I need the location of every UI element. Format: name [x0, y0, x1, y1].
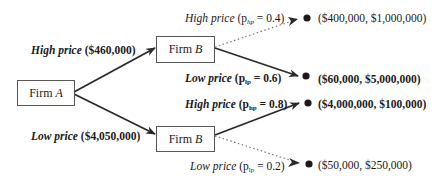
node-player: B — [195, 42, 202, 57]
arrowhead-top-high — [288, 17, 298, 26]
terminal-node-2 — [302, 72, 309, 79]
payoff-1: ($400,000, $1,000,000) — [318, 11, 426, 25]
node-firm-a: Firm A — [17, 80, 75, 106]
payoff-2: ($60,000, $5,000,000) — [318, 72, 421, 86]
terminal-node-1 — [303, 14, 310, 21]
label-bottom-high: High price (php = 0.8) — [185, 97, 287, 115]
terminal-node-3 — [304, 99, 311, 106]
node-firm-b-top: Firm B — [156, 36, 215, 63]
arrowhead-bottom-low — [288, 158, 300, 167]
node-label: Firm — [169, 42, 192, 57]
node-label: Firm — [29, 86, 52, 101]
node-firm-b-bottom: Firm B — [156, 126, 215, 152]
label-top-low: Low price (plp = 0.6) — [185, 71, 281, 89]
node-player: B — [195, 132, 202, 147]
node-label: Firm — [169, 132, 192, 147]
edge-a-low — [74, 94, 155, 134]
label-bottom-low: Low price (plp = 0.2) — [190, 159, 285, 177]
label-a-low: Low price ($4,050,000) — [31, 129, 140, 143]
label-a-high: High price ($460,000) — [31, 43, 135, 57]
payoff-4: ($50,000, $250,000) — [318, 158, 412, 172]
node-player: A — [56, 86, 63, 101]
terminal-node-4 — [305, 160, 312, 167]
payoff-3: ($4,000,000, $100,000) — [318, 97, 426, 111]
label-top-high: High price (php = 0.4) — [185, 11, 284, 29]
